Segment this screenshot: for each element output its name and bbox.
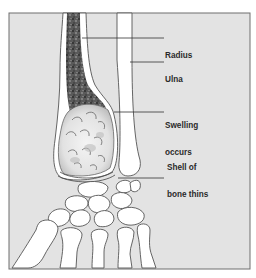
label-shell: Shell of bone thins [167, 145, 208, 208]
label-shell-line2: bone thins [167, 190, 208, 199]
swelling-region [58, 104, 114, 176]
label-swelling-line1: Swelling [165, 121, 198, 130]
label-shell-line1: Shell of [167, 163, 208, 172]
label-ulna-text: Ulna [165, 75, 183, 84]
label-ulna: Ulna [165, 57, 183, 93]
wrist-bone-diagram [0, 0, 256, 278]
